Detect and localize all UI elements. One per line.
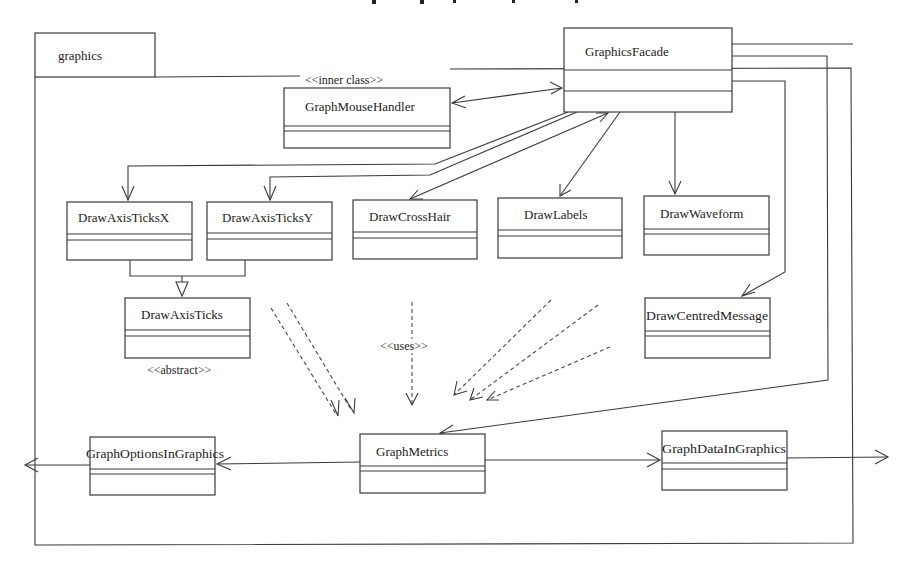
class-draw-axis-ticks-y[interactable]: DrawAxisTicksY bbox=[207, 202, 332, 260]
class-name: GraphMouseHandler bbox=[305, 99, 415, 114]
package-name: graphics bbox=[58, 48, 102, 63]
class-draw-cross-hair[interactable]: DrawCrossHair bbox=[353, 200, 477, 259]
class-draw-labels[interactable]: DrawLabels bbox=[498, 198, 622, 258]
class-name: GraphicsFacade bbox=[585, 44, 669, 59]
class-name: DrawAxisTicks bbox=[141, 307, 223, 322]
title-remnant bbox=[372, 0, 578, 4]
class-name: DrawLabels bbox=[524, 207, 588, 222]
uses-label: <<uses>> bbox=[380, 339, 428, 353]
class-name: DrawAxisTicksY bbox=[222, 210, 314, 225]
class-graph-metrics[interactable]: GraphMetrics bbox=[360, 434, 485, 493]
class-name: DrawAxisTicksX bbox=[78, 210, 170, 225]
class-graph-options-in-graphics[interactable]: GraphOptionsInGraphics bbox=[86, 437, 224, 495]
class-draw-axis-ticks[interactable]: DrawAxisTicks <<abstract>> bbox=[125, 298, 250, 377]
class-graphics-facade[interactable]: GraphicsFacade bbox=[564, 28, 732, 112]
class-name: DrawWaveform bbox=[660, 206, 743, 221]
class-name: DrawCrossHair bbox=[369, 209, 451, 224]
uml-class-diagram: graphics bbox=[0, 0, 906, 568]
class-draw-centred-message[interactable]: DrawCentredMessage bbox=[645, 298, 770, 358]
class-name: GraphMetrics bbox=[376, 444, 448, 459]
class-name: GraphDataInGraphics bbox=[662, 441, 786, 456]
stereotype-inner-class: <<inner class>> bbox=[305, 73, 383, 87]
class-graph-data-in-graphics[interactable]: GraphDataInGraphics bbox=[662, 431, 787, 490]
class-graph-mouse-handler[interactable]: <<inner class>> GraphMouseHandler bbox=[284, 73, 450, 148]
class-draw-waveform[interactable]: DrawWaveform bbox=[644, 196, 769, 255]
class-draw-axis-ticks-x[interactable]: DrawAxisTicksX bbox=[67, 202, 192, 260]
class-name: DrawCentredMessage bbox=[646, 308, 768, 323]
class-name: GraphOptionsInGraphics bbox=[86, 446, 224, 461]
stereotype-abstract: <<abstract>> bbox=[147, 363, 212, 377]
